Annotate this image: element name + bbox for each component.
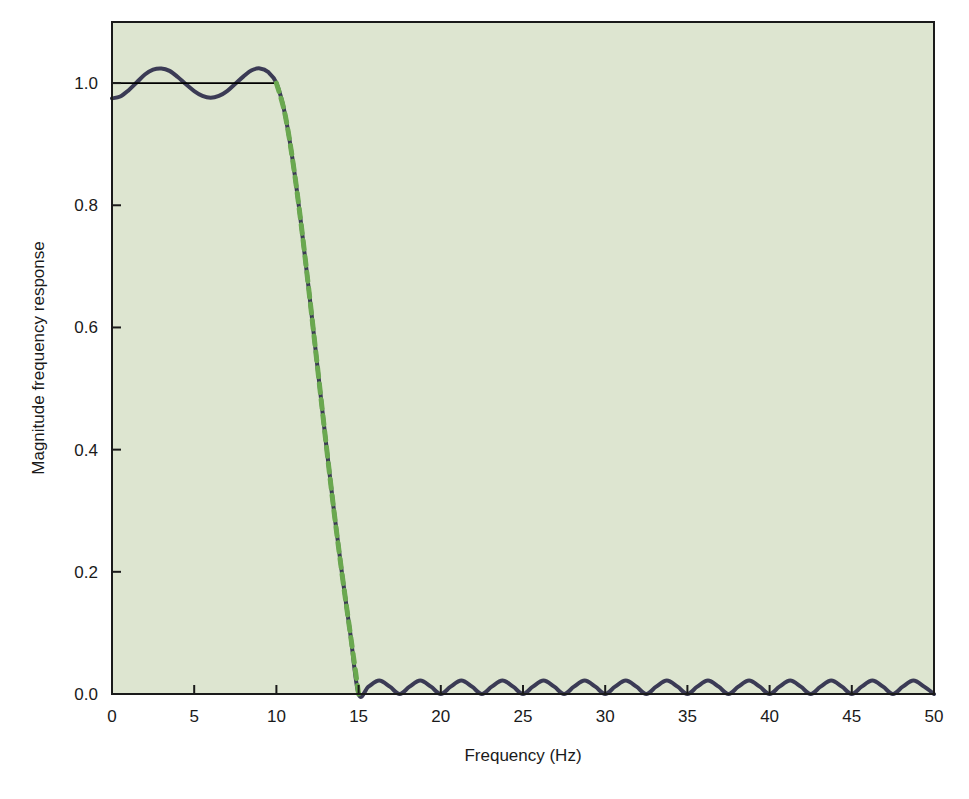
x-tick-label: 5 (189, 707, 198, 726)
x-tick-label: 25 (514, 707, 533, 726)
x-tick-label: 30 (596, 707, 615, 726)
y-tick-label: 0.2 (74, 563, 98, 582)
x-tick-label: 50 (925, 707, 944, 726)
x-tick-label: 35 (678, 707, 697, 726)
x-tick-label: 45 (842, 707, 861, 726)
x-tick-label: 20 (431, 707, 450, 726)
x-tick-label: 10 (267, 707, 286, 726)
x-tick-label: 40 (760, 707, 779, 726)
magnitude-frequency-response-chart: 05101520253035404550 0.00.20.40.60.81.0 … (0, 0, 969, 799)
x-tick-label: 0 (107, 707, 116, 726)
x-axis-tick-labels: 05101520253035404550 (107, 707, 943, 726)
figure-canvas: 05101520253035404550 0.00.20.40.60.81.0 … (0, 0, 969, 799)
y-tick-label: 1.0 (74, 74, 98, 93)
plot-area-background (112, 22, 934, 694)
y-tick-label: 0.4 (74, 441, 98, 460)
y-tick-label: 0.0 (74, 685, 98, 704)
y-tick-label: 0.6 (74, 318, 98, 337)
y-tick-label: 0.8 (74, 196, 98, 215)
x-axis-title: Frequency (Hz) (464, 746, 581, 765)
y-axis-title: Magnitude frequency response (29, 241, 48, 474)
x-tick-label: 15 (349, 707, 368, 726)
y-axis-tick-labels: 0.00.20.40.60.81.0 (74, 74, 98, 704)
